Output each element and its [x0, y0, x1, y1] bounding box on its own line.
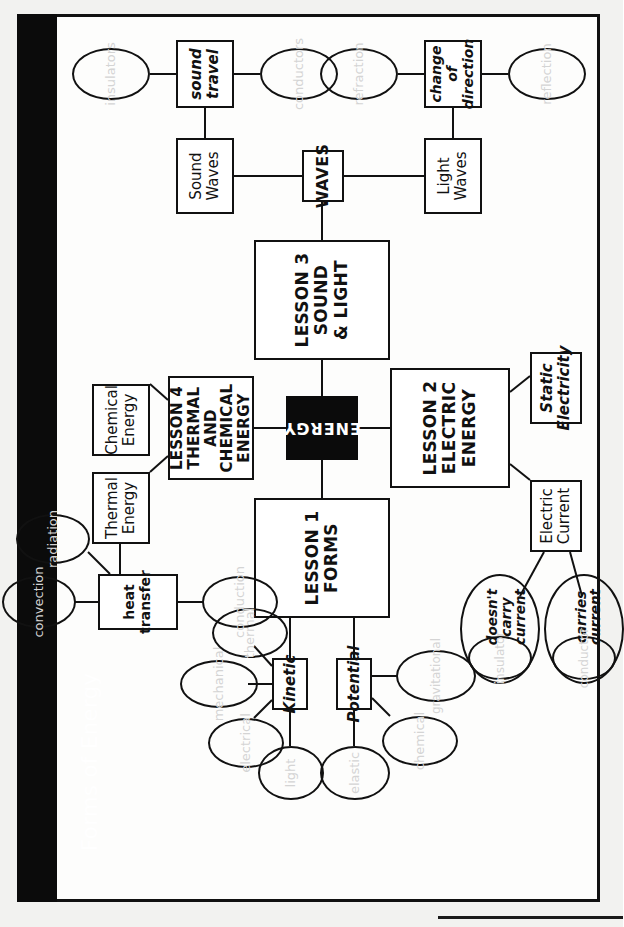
blank-oval-chemical[interactable]: chemical — [382, 716, 458, 766]
node-static-electricity[interactable]: Static Electricity — [530, 352, 582, 424]
concept-map: ENERGY LESSON 1 FORMS LESSON 2 ELECTRIC … — [58, 20, 594, 896]
blank-oval-reflection-answer: reflection — [540, 43, 554, 104]
node-change-of-direction[interactable]: change of direction — [424, 40, 482, 108]
blank-oval-convection-answer: convection — [32, 566, 46, 637]
blank-oval-mechanical-answer: mechanical — [212, 647, 226, 722]
node-sound-waves-label: Sound Waves — [188, 152, 222, 201]
node-sound-travel[interactable]: sound travel — [176, 40, 234, 108]
node-thermal-energy[interactable]: Thermal Energy — [92, 472, 150, 544]
blank-oval-elastic[interactable]: elastic — [320, 746, 390, 800]
blank-oval-conductor[interactable]: conductor — [552, 636, 616, 680]
node-electric-current-label: Electric Current — [539, 488, 573, 544]
blank-oval-gravitational-answer: gravitational — [430, 638, 443, 714]
title-bar: Forms of Energy — [17, 14, 57, 902]
node-heat-transfer[interactable]: heat transfer — [98, 574, 178, 630]
node-kinetic-label: Kinetic — [282, 655, 299, 714]
page-bottom-rule — [438, 916, 623, 927]
node-kinetic[interactable]: Kinetic — [272, 658, 308, 710]
node-lesson-2[interactable]: LESSON 2 ELECTRIC ENERGY — [390, 368, 510, 488]
node-chemical-energy[interactable]: Chemical Energy — [92, 384, 150, 456]
node-heat-transfer-label: heat transfer — [122, 570, 153, 634]
node-energy-label: ENERGY — [283, 419, 361, 437]
blank-oval-insulators[interactable]: insulators — [72, 48, 150, 100]
blank-oval-electrical[interactable]: electrical — [208, 718, 284, 768]
node-chemical-energy-label: Chemical Energy — [104, 385, 138, 455]
node-waves-label: WAVES — [314, 144, 332, 209]
node-light-waves-label: Light Waves — [436, 152, 470, 201]
node-lesson-3-label: LESSON 3 SOUND & LIGHT — [293, 253, 350, 348]
blank-oval-conduction[interactable]: conduction — [202, 576, 278, 628]
blank-oval-insulator-answer: insulator — [494, 632, 507, 684]
blank-oval-reflection[interactable]: reflection — [508, 48, 586, 100]
blank-oval-elastic-answer: elastic — [348, 752, 362, 794]
blank-oval-light-answer: light — [284, 759, 298, 788]
blank-oval-mechanical[interactable]: mechanical — [180, 660, 258, 708]
node-sound-waves[interactable]: Sound Waves — [176, 138, 234, 214]
node-lesson-4[interactable]: LESSON 4 THERMAL AND CHEMICAL ENERGY — [168, 376, 254, 480]
node-electric-current[interactable]: Electric Current — [530, 480, 582, 552]
blank-oval-electrical-answer: electrical — [239, 713, 253, 773]
node-lesson-1-label: LESSON 1 FORMS — [303, 511, 341, 606]
node-lesson-4-label: LESSON 4 THERMAL AND CHEMICAL ENERGY — [169, 378, 253, 478]
node-potential-label: Potential — [346, 646, 363, 723]
blank-oval-conductors-answer: conductors — [292, 38, 306, 110]
blank-oval-gravitational[interactable]: gravitational — [396, 650, 476, 702]
blank-oval-insulator[interactable]: insulator — [468, 636, 532, 680]
node-light-waves[interactable]: Light Waves — [424, 138, 482, 214]
node-thermal-energy-label: Thermal Energy — [104, 477, 138, 539]
blank-oval-chemical-answer: chemical — [413, 712, 427, 770]
blank-oval-refraction-answer: refraction — [352, 43, 366, 106]
blank-oval-radiation[interactable]: radiation — [16, 514, 90, 564]
blank-oval-convection[interactable]: convection — [2, 576, 76, 628]
node-sound-travel-label: sound travel — [188, 48, 222, 99]
blank-oval-insulators-answer: insulators — [104, 42, 118, 106]
node-static-electricity-label: Static Electricity — [539, 345, 573, 430]
node-potential[interactable]: Potential — [336, 658, 372, 710]
node-waves[interactable]: WAVES — [302, 150, 344, 202]
blank-oval-refraction[interactable]: refraction — [320, 48, 398, 100]
node-energy[interactable]: ENERGY — [286, 396, 358, 460]
blank-oval-radiation-answer: radiation — [46, 510, 60, 568]
node-lesson-3[interactable]: LESSON 3 SOUND & LIGHT — [254, 240, 390, 360]
node-lesson-2-label: LESSON 2 ELECTRIC ENERGY — [421, 381, 478, 476]
blank-oval-conduction-answer: conduction — [233, 566, 247, 638]
node-change-of-direction-label: change of direction — [429, 39, 476, 110]
blank-oval-conductor-answer: conductor — [578, 628, 591, 688]
